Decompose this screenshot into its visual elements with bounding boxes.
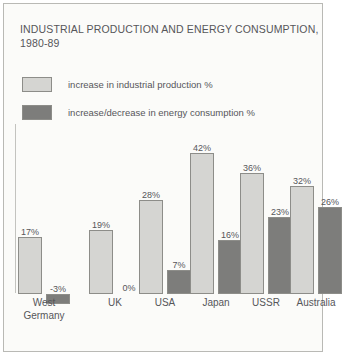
chart-title-line-1: INDUSTRIAL PRODUCTION AND ENERGY CONSUMP…	[20, 22, 310, 36]
bar: 17%	[18, 237, 42, 294]
bar: 42%	[190, 153, 214, 294]
plot-area: 17%-3%19%0%28%7%42%16%36%23%32%26%	[15, 124, 320, 294]
bar-value-label: 26%	[321, 197, 339, 207]
x-axis-label: Australia	[280, 296, 346, 309]
bar-value-label: 16%	[221, 230, 239, 240]
x-axis-label: WestGermany	[8, 296, 80, 322]
bar-group: 42%16%	[190, 125, 242, 294]
x-axis-label-line: West	[8, 296, 80, 309]
x-axis-label-line: Australia	[280, 296, 346, 309]
bar: 16%	[218, 240, 242, 294]
bar-value-label: 36%	[243, 163, 261, 173]
bar-group: 28%7%	[139, 125, 191, 294]
bar-group: 19%0%	[89, 125, 141, 294]
bar-group: 32%26%	[290, 125, 342, 294]
bar: 28%	[139, 200, 163, 294]
chart-title-line-2: 1980-89	[20, 36, 310, 50]
bar-value-label: 7%	[172, 260, 185, 270]
legend-item-energy-consumption: increase/decrease in energy consumption …	[22, 102, 312, 122]
bar-value-label: 23%	[271, 207, 289, 217]
x-axis-label-line: Germany	[8, 309, 80, 322]
legend-item-industrial-production: increase in industrial production %	[22, 74, 312, 94]
bar: 7%	[167, 270, 191, 294]
bar-group: 36%23%	[240, 125, 292, 294]
chart-figure: INDUSTRIAL PRODUCTION AND ENERGY CONSUMP…	[3, 3, 323, 352]
bar: 23%	[268, 217, 292, 294]
bar-value-label: 17%	[21, 227, 39, 237]
bar-value-label: -3%	[50, 284, 66, 294]
bar-value-label: 32%	[293, 176, 311, 186]
bar-value-label: 42%	[193, 143, 211, 153]
bar: 26%	[318, 207, 342, 294]
chart-title: INDUSTRIAL PRODUCTION AND ENERGY CONSUMP…	[20, 22, 310, 50]
x-axis-labels: WestGermanyUKUSAJapanUSSRAustralia	[15, 296, 320, 336]
legend-swatch-icon	[22, 77, 52, 92]
y-axis-line	[15, 124, 16, 293]
bar-group: 17%-3%	[18, 125, 70, 294]
bar: 19%	[89, 230, 113, 294]
bar-value-label: 28%	[142, 190, 160, 200]
legend-label: increase in industrial production %	[68, 79, 213, 90]
chart-legend: increase in industrial production % incr…	[22, 74, 312, 130]
bar: 36%	[240, 173, 264, 294]
bar-value-label: 19%	[92, 220, 110, 230]
legend-label: increase/decrease in energy consumption …	[68, 107, 255, 118]
bar-value-label: 0%	[122, 283, 135, 293]
legend-swatch-icon	[22, 105, 52, 120]
bar: 32%	[290, 186, 314, 294]
